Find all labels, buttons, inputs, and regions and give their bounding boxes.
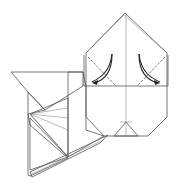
main-section xyxy=(84,13,168,136)
main-house-shape xyxy=(86,13,167,136)
bottom-layer-line xyxy=(30,140,103,175)
fan-line-4 xyxy=(30,114,58,146)
fan-line-1 xyxy=(30,108,68,114)
gray-upper-strip xyxy=(28,92,45,114)
roof-inner-edge xyxy=(86,15,167,53)
left-fold-arrow-icon xyxy=(92,54,112,85)
gray-left-column xyxy=(28,114,68,176)
top-left-flap xyxy=(11,72,83,110)
fan-line-3 xyxy=(30,114,68,130)
right-valley-fold xyxy=(137,57,165,86)
fan-line-2 xyxy=(30,114,68,118)
origami-diagram xyxy=(0,0,180,189)
